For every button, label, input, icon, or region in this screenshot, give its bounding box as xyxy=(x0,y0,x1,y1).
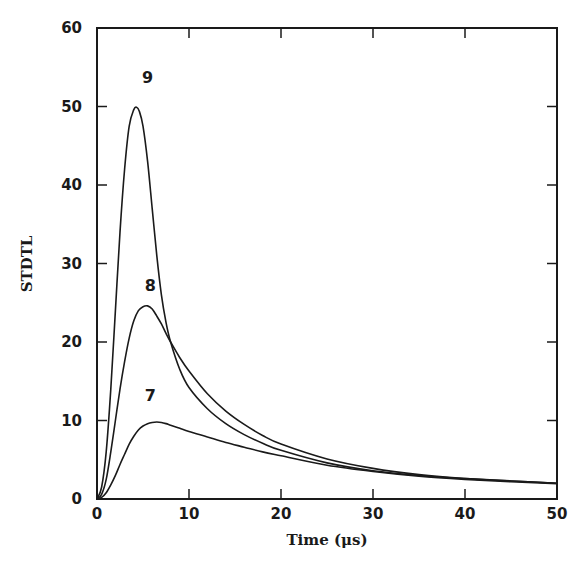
x-tick-label: 20 xyxy=(271,505,292,523)
curve-9 xyxy=(97,107,557,499)
curve-labels: 987 xyxy=(142,68,156,405)
x-tick-label: 10 xyxy=(179,505,200,523)
x-tick-label: 30 xyxy=(363,505,384,523)
y-axis-label: STDTL xyxy=(18,235,36,292)
y-tick-label: 0 xyxy=(72,490,82,508)
x-tick-label: 0 xyxy=(92,505,102,523)
y-tick-label: 60 xyxy=(61,19,82,37)
plot-frame xyxy=(97,28,557,499)
x-tick-label: 50 xyxy=(547,505,568,523)
y-tick-label: 10 xyxy=(61,412,82,430)
y-tick-label: 20 xyxy=(61,333,82,351)
y-tick-label: 30 xyxy=(61,255,82,273)
curve-label-7: 7 xyxy=(145,386,156,405)
curve-7 xyxy=(97,422,557,499)
y-tick-label: 50 xyxy=(61,98,82,116)
x-axis-label: Time (μs) xyxy=(286,531,367,549)
y-tick-label: 40 xyxy=(61,176,82,194)
curve-label-8: 8 xyxy=(145,276,156,295)
axis-ticks xyxy=(97,28,557,499)
data-curves xyxy=(97,107,557,499)
axis-tick-labels: 010203040500102030405060 xyxy=(61,19,567,523)
curve-label-9: 9 xyxy=(142,68,153,87)
plot-border xyxy=(97,28,557,499)
chart: 010203040500102030405060 987 Time (μs) S… xyxy=(0,0,579,562)
x-tick-label: 40 xyxy=(455,505,476,523)
curve-8 xyxy=(97,306,557,499)
